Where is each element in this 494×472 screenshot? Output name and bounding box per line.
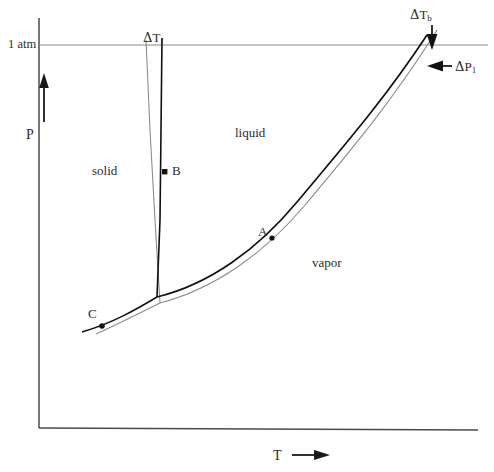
- region-label-solid: solid: [92, 164, 117, 177]
- temperature-right-arrow-icon: [292, 450, 330, 460]
- point-label-A: A: [258, 225, 267, 238]
- region-label-vapor: vapor: [312, 256, 342, 269]
- solution-vaporization-curve: [160, 30, 437, 303]
- annotation-label-delta-Tb: ΔTb: [410, 8, 432, 21]
- x-axis-label: T: [273, 449, 282, 463]
- pressure-up-arrow-icon: [39, 73, 49, 122]
- annotation-label-delta-P1: ΔP1: [455, 60, 476, 73]
- delta-glyph-f: Δ: [143, 30, 152, 45]
- delta-P1-left-arrow-icon: [427, 61, 452, 72]
- delta-Tb-down-arrow-icon: [427, 25, 438, 50]
- delta-glyph-p: Δ: [455, 59, 464, 74]
- region-label-liquid: liquid: [235, 126, 265, 139]
- delta-P1-symbol: P: [464, 59, 471, 74]
- solution-sublimation-curve: [96, 303, 160, 334]
- solvent-fusion-curve: [157, 38, 162, 297]
- solvent-vaporization-curve: [157, 35, 427, 297]
- diagram-canvas: [0, 0, 494, 472]
- point-label-C: C: [88, 307, 97, 320]
- solution-curves: [96, 30, 437, 334]
- one-atm-label: 1 atm: [8, 38, 36, 51]
- delta-P1-subscript: 1: [472, 65, 477, 75]
- delta-Tb-subscript: b: [427, 13, 432, 23]
- point-marker-B: [162, 169, 167, 174]
- delta-glyph-b: Δ: [410, 7, 419, 22]
- solvent-curves: [82, 35, 427, 332]
- x-axis: [39, 428, 478, 430]
- point-label-B: B: [172, 164, 181, 177]
- point-marker-A: [269, 235, 274, 240]
- point-marker-C: [99, 323, 105, 329]
- annotation-label-delta-Tf: ΔTf: [143, 31, 163, 44]
- y-axis-label: P: [26, 128, 34, 142]
- phase-diagram: 1 atm P T solid liquid vapor A B C ΔTf Δ…: [0, 0, 494, 472]
- delta-Tf-subscript: f: [160, 36, 163, 46]
